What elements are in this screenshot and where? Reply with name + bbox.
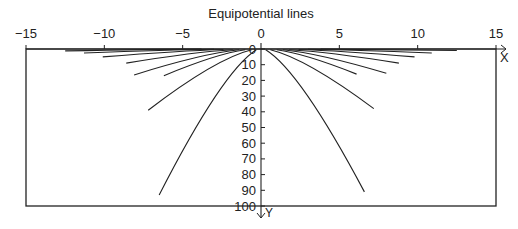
equipotential-chart: Equipotential lines −15−10−5051015 01020…	[0, 0, 518, 229]
y-tick-label: 90	[242, 183, 256, 198]
x-axis-label: X	[500, 50, 509, 65]
x-tick-label: 5	[336, 26, 343, 41]
y-tick-label: 40	[242, 104, 256, 119]
y-tick-label: 80	[242, 167, 256, 182]
y-tick-label: 60	[242, 136, 256, 151]
x-axis-ticks: −15−10−5051015	[15, 26, 503, 49]
y-tick-label: 100	[234, 199, 256, 214]
x-tick-label: 10	[410, 26, 424, 41]
y-tick-label: 30	[242, 89, 256, 104]
x-tick-label: −5	[175, 26, 190, 41]
y-axis-label: Y	[265, 206, 273, 220]
y-tick-label: 20	[242, 73, 256, 88]
y-axis-ticks: 0102030405060708090100	[234, 42, 265, 214]
x-tick-label: 0	[257, 26, 264, 41]
equipotential-line	[148, 50, 251, 110]
x-tick-label: −10	[93, 26, 115, 41]
chart-canvas: Equipotential lines −15−10−5051015 01020…	[0, 0, 518, 229]
chart-title: Equipotential lines	[208, 6, 314, 21]
y-tick-label: 10	[242, 57, 256, 72]
x-tick-label: 15	[489, 26, 503, 41]
y-tick-label: 50	[242, 120, 256, 135]
x-axis-arrow	[26, 45, 506, 53]
x-tick-label: −15	[15, 26, 37, 41]
y-axis-arrow	[257, 43, 265, 218]
y-tick-label: 70	[242, 151, 256, 166]
equipotential-line	[270, 50, 373, 109]
